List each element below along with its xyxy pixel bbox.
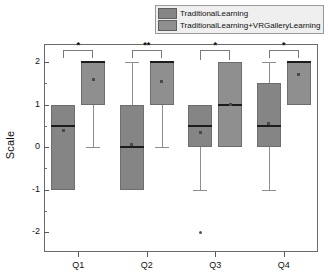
mean-marker <box>92 78 95 81</box>
mean-marker <box>62 129 65 132</box>
significance-label-q3: * <box>205 41 225 50</box>
y-tick-major <box>44 190 49 191</box>
box-q2-series2 <box>150 62 174 105</box>
whisker-cap-lower <box>193 190 207 191</box>
y-tick-major <box>44 105 49 106</box>
bracket-leg-right <box>298 50 299 58</box>
x-tick <box>147 252 148 257</box>
bracket-bar <box>63 50 93 51</box>
median-line <box>188 125 212 127</box>
whisker-cap-upper <box>262 62 276 63</box>
bracket-leg-left <box>269 50 270 58</box>
x-tick-label: Q2 <box>132 261 162 270</box>
median-line <box>287 61 311 63</box>
y-tick-major <box>44 147 49 148</box>
bracket-leg-left <box>200 50 201 60</box>
median-line <box>81 61 105 63</box>
y-tick-minor <box>44 168 47 169</box>
whisker-cap-lower <box>155 147 169 148</box>
bracket-leg-right <box>161 50 162 58</box>
box-q4-series2 <box>287 62 311 105</box>
whisker-cap-lower <box>262 190 276 191</box>
x-tick-label: Q1 <box>63 261 93 270</box>
bracket-leg-right <box>229 50 230 60</box>
box-q1-series2 <box>81 62 105 105</box>
box-q4-series1 <box>257 83 281 147</box>
y-tick-label: -2 <box>24 227 40 236</box>
bracket-bar <box>269 50 299 51</box>
mean-marker <box>160 80 163 83</box>
x-tick <box>78 252 79 257</box>
mean-marker <box>199 131 202 134</box>
whisker-cap-upper <box>125 62 139 63</box>
x-tick-label: Q3 <box>200 261 230 270</box>
bracket-bar <box>132 50 162 51</box>
mean-marker <box>297 73 300 76</box>
bracket-bar <box>200 50 230 51</box>
y-tick-label: 2 <box>24 57 40 66</box>
whisker-cap-lower <box>86 147 100 148</box>
outlier-point <box>199 231 202 234</box>
y-tick-label: 0 <box>24 142 40 151</box>
mean-marker <box>267 122 270 125</box>
x-tick <box>284 252 285 257</box>
box-q1-series1 <box>51 105 75 190</box>
bracket-leg-right <box>92 50 93 58</box>
y-tick-major <box>44 232 49 233</box>
y-tick-major <box>44 62 49 63</box>
median-line <box>150 61 174 63</box>
y-tick-label: -1 <box>24 185 40 194</box>
chart-overlay: 210-1-2ScaleQ1Q2Q3Q4***** <box>0 0 328 279</box>
y-tick-minor <box>44 126 47 127</box>
mean-marker <box>229 103 232 106</box>
significance-label-q2: ** <box>137 41 157 50</box>
y-axis-label: Scale <box>4 131 16 160</box>
bracket-leg-left <box>63 50 64 58</box>
y-tick-minor <box>44 83 47 84</box>
y-tick-label: 1 <box>24 100 40 109</box>
boxplot-figure: TraditionalLearning TraditionalLearning+… <box>0 0 328 279</box>
bracket-leg-left <box>132 50 133 58</box>
x-tick <box>215 252 216 257</box>
significance-label-q4: * <box>274 41 294 50</box>
mean-marker <box>130 143 133 146</box>
y-tick-minor <box>44 211 47 212</box>
x-tick-label: Q4 <box>269 261 299 270</box>
median-line <box>51 125 75 127</box>
significance-label-q1: * <box>68 41 88 50</box>
